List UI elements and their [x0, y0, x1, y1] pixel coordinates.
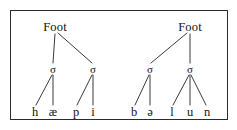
left-tree-terminal-ae: æ: [49, 106, 57, 119]
right-tree-sigma-2: σ: [187, 64, 193, 75]
right-foot-to-sigma1: [151, 33, 187, 63]
diagram-canvas: Foot σ σ h æ p i Foot σ σ b ə l u n: [0, 0, 237, 130]
left-tree-sigma-2: σ: [90, 64, 96, 75]
left-sigma1-to-h: [36, 75, 52, 105]
left-tree-foot-label: Foot: [43, 21, 67, 34]
right-tree-terminal-schwa: ə: [147, 106, 153, 119]
right-tree-terminal-u: u: [187, 106, 193, 119]
left-foot-to-sigma2: [58, 33, 92, 63]
left-sigma2-to-p: [77, 75, 92, 105]
right-tree-sigma-1: σ: [147, 64, 153, 75]
right-tree-terminal-n: n: [204, 106, 210, 119]
left-foot-to-sigma1: [53, 34, 55, 63]
right-sigma2-to-n: [191, 75, 206, 105]
left-tree-sigma-1: σ: [50, 64, 56, 75]
right-tree-terminal-b: b: [131, 106, 137, 119]
right-sigma2-to-l: [173, 75, 189, 105]
right-sigma1-to-b: [135, 75, 149, 105]
left-tree-terminal-i: i: [91, 106, 94, 119]
left-tree-terminal-p: p: [73, 106, 79, 119]
right-tree-foot-label: Foot: [178, 21, 202, 34]
right-tree-terminal-l: l: [170, 106, 173, 119]
left-tree-terminal-h: h: [32, 106, 38, 119]
